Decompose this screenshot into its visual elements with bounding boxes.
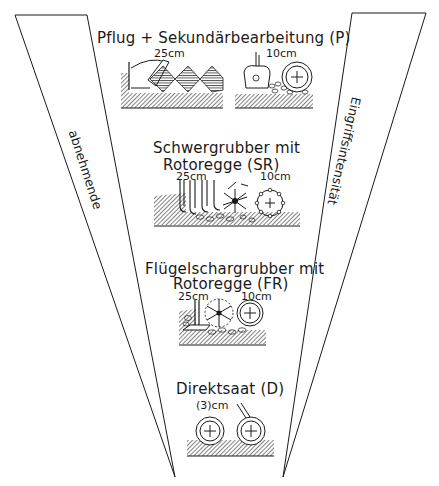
stage-fr-depth-primary: 25cm: [178, 290, 209, 303]
diagram-canvas: [0, 0, 439, 486]
stage-direct-seeding-title: Direktsaat (D): [176, 381, 284, 398]
plough-illustration: [121, 60, 223, 108]
left-wedge: [15, 15, 175, 477]
wing-share-cultivator-illustration: [179, 299, 266, 345]
right-wedge: [283, 13, 426, 477]
stage-plough-depth-primary: 25cm: [154, 47, 185, 60]
stage-fr-depth-secondary: 10cm: [241, 290, 272, 303]
stage-sr-depth-primary: 25cm: [176, 170, 207, 183]
stage-sr-depth-secondary: 10cm: [260, 170, 291, 183]
stage-direct-seeding-depth: (3)cm: [196, 399, 228, 412]
stage-plough-title: Pflug + Sekundärbearbeitung (P): [97, 30, 351, 47]
heavy-cultivator-illustration: [154, 180, 300, 226]
stage-plough-depth-secondary: 10cm: [266, 47, 297, 60]
secondary-tillage-illustration: [235, 52, 313, 108]
stage-sr-title-line1: Schwergrubber mit: [153, 140, 300, 157]
